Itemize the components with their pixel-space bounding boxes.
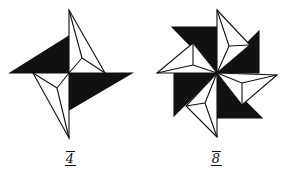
figure-label-text: 8 (206, 152, 226, 165)
figure-4 (10, 10, 132, 138)
black-triangle-bottom-right (69, 73, 132, 110)
figures-canvas (0, 0, 283, 176)
white-point-bottom (33, 73, 69, 138)
white-point-top (69, 10, 105, 73)
figure-label-text: 4 (60, 152, 80, 165)
figure-label-4: 4 (60, 151, 80, 166)
figure-8 (157, 10, 277, 137)
figure-label-8: 8 (206, 151, 226, 166)
black-triangle-top-left (10, 36, 69, 73)
